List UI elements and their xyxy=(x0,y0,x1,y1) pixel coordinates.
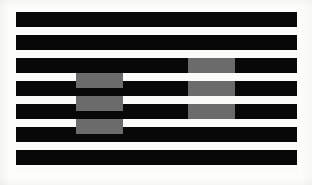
grating-plate xyxy=(16,12,297,173)
grating-bar xyxy=(16,12,297,27)
gray-test-patch-on-black xyxy=(188,58,235,73)
grating-bar xyxy=(16,104,297,119)
gray-test-patch-on-white xyxy=(76,96,123,111)
grating-bar xyxy=(16,150,297,165)
gray-test-patch-on-black xyxy=(188,81,235,96)
illusion-figure xyxy=(0,0,312,185)
gray-test-patch-on-white xyxy=(76,73,123,88)
grating-bar xyxy=(16,58,297,73)
grating-bar xyxy=(16,35,297,50)
grating-bar xyxy=(16,127,297,142)
gray-test-patch-on-black xyxy=(188,104,235,119)
gray-test-patch-on-white xyxy=(76,119,123,134)
grating-bar xyxy=(16,81,297,96)
